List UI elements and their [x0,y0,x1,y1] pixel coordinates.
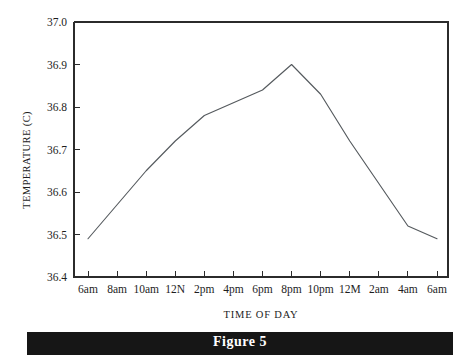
y-axis-tick-label: 37.0 [47,16,67,28]
y-axis-title: TEMPERATURE (C) [21,111,33,209]
figure-caption-band: Figure 5 [27,332,453,355]
y-axis-tick-label: 36.4 [47,271,67,283]
x-axis-tick-label: 6am [427,283,447,295]
x-axis-tick-label: 12N [165,283,186,295]
figure-container: 37.036.936.836.736.636.536.4 6am8am10am1… [0,0,475,355]
y-axis-tick-label: 36.8 [47,101,67,113]
x-axis-tick-label: 6pm [252,283,273,296]
x-axis-ticks [88,271,437,277]
x-axis-tick-label: 8am [107,283,127,295]
x-axis-tick-label: 2am [369,283,389,295]
y-axis-tick-label: 36.7 [47,144,67,156]
x-axis-tick-label: 6am [78,283,98,295]
x-axis-tick-label: 12M [339,283,361,295]
y-axis-tick-label: 36.9 [47,59,67,71]
y-axis-tick-labels: 37.036.936.836.736.636.536.4 [47,16,67,283]
y-axis-tick-label: 36.5 [47,229,67,241]
x-axis-tick-label: 4pm [223,283,244,296]
x-axis-tick-label: 10pm [308,283,334,296]
y-axis-tick-label: 36.6 [47,186,67,198]
chart-area: 37.036.936.836.736.636.536.4 6am8am10am1… [0,0,475,330]
plot-frame [74,22,448,277]
y-axis-ticks [74,65,80,235]
data-series-line [88,65,437,239]
x-axis-tick-label: 10am [133,283,159,295]
temperature-line-chart: 37.036.936.836.736.636.536.4 6am8am10am1… [0,0,475,330]
x-axis-tick-label: 2pm [194,283,215,296]
x-axis-tick-label: 8pm [281,283,302,296]
x-axis-tick-label: 4am [398,283,418,295]
x-axis-title: TIME OF DAY [224,309,299,320]
x-axis-tick-labels: 6am8am10am12N2pm4pm6pm8pm10pm12M2am4am6a… [78,283,447,296]
figure-caption-text: Figure 5 [27,334,453,350]
